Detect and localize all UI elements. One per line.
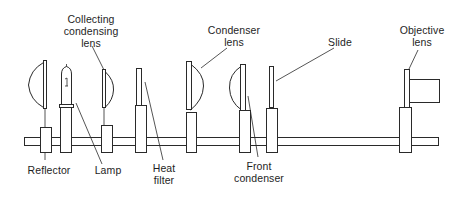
label-collecting-condensing-lens: Collecting condensing lens bbox=[60, 13, 122, 49]
collecting-condensing-lens-component bbox=[102, 70, 114, 153]
label-line: Lamp bbox=[88, 164, 128, 176]
leader-condenser-lens bbox=[201, 48, 227, 68]
leader-lamp bbox=[76, 103, 102, 164]
optical-rail bbox=[25, 138, 439, 146]
leader-slide bbox=[276, 48, 334, 81]
label-reflector: Reflector bbox=[24, 164, 74, 176]
label-line: Collecting bbox=[60, 13, 122, 25]
leader-collecting-lens bbox=[92, 46, 104, 70]
label-line: Slide bbox=[320, 36, 360, 48]
label-heat-filter: Heat filter bbox=[146, 162, 182, 186]
label-line: Condenser bbox=[204, 24, 264, 36]
leader-heat-filter bbox=[145, 82, 163, 160]
label-line: Reflector bbox=[24, 164, 74, 176]
label-line: Heat bbox=[146, 162, 182, 174]
label-line: lens bbox=[392, 36, 452, 48]
label-line: lens bbox=[204, 36, 264, 48]
label-line: condenser bbox=[228, 172, 290, 184]
lamp-component bbox=[60, 64, 74, 153]
slide-component bbox=[267, 67, 278, 153]
optical-bench-diagram: Collecting condensing lens Condenser len… bbox=[0, 0, 462, 202]
label-line: lens bbox=[60, 37, 122, 49]
label-objective-lens: Objective lens bbox=[392, 24, 452, 48]
label-line: filter bbox=[146, 174, 182, 186]
label-line: Objective bbox=[392, 24, 452, 36]
label-front-condenser: Front condenser bbox=[228, 160, 290, 184]
label-condenser-lens: Condenser lens bbox=[204, 24, 264, 48]
heat-filter-component bbox=[136, 69, 147, 153]
label-slide: Slide bbox=[320, 36, 360, 48]
label-line: Front bbox=[228, 160, 290, 172]
label-line: condensing bbox=[60, 25, 122, 37]
leader-objective-lens bbox=[409, 50, 418, 69]
label-lamp: Lamp bbox=[88, 164, 128, 176]
